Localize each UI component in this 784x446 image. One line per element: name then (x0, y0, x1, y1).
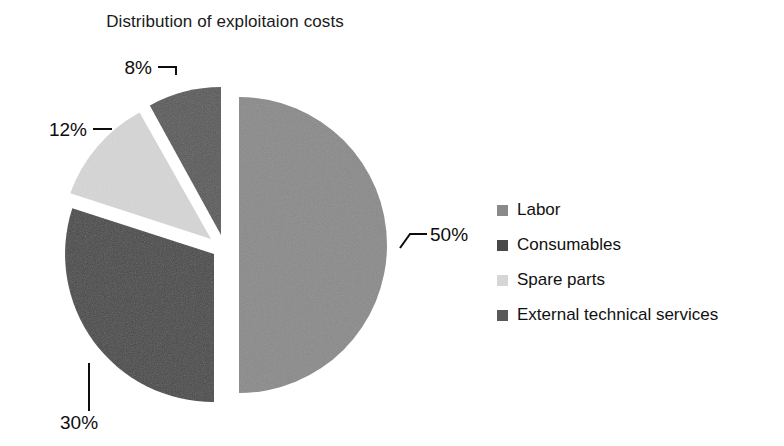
pie-svg: 50% 30% 12% 8% (0, 0, 470, 446)
legend-swatch-icon (497, 275, 508, 286)
legend-item-label: Consumables (517, 236, 621, 253)
pie-label-spare-parts: 12% (49, 119, 87, 140)
pie-chart-figure: Distribution of exploitaion costs (0, 0, 784, 446)
chart-legend: Labor Consumables Spare parts External t… (497, 192, 784, 332)
legend-item-label: Labor (517, 201, 560, 218)
leader-line-labor (400, 234, 427, 248)
legend-swatch-icon (497, 240, 508, 251)
pie-plot-area: 50% 30% 12% 8% (0, 0, 470, 446)
legend-item-labor[interactable]: Labor (497, 192, 784, 227)
pie-label-consumables: 30% (60, 412, 98, 433)
legend-item-spare-parts[interactable]: Spare parts (497, 262, 784, 297)
pie-label-labor: 50% (430, 224, 468, 245)
legend-swatch-icon (497, 205, 508, 216)
legend-swatch-icon (497, 310, 508, 321)
leader-line-external-technical-services (158, 67, 176, 75)
legend-item-label: External technical services (517, 306, 718, 323)
pie-slice-labor[interactable] (239, 97, 387, 393)
legend-item-label: Spare parts (517, 271, 605, 288)
legend-item-external-technical-services[interactable]: External technical services (497, 297, 784, 332)
pie-slice-consumables[interactable] (65, 208, 214, 402)
pie-label-external-technical-services: 8% (125, 57, 153, 78)
legend-item-consumables[interactable]: Consumables (497, 227, 784, 262)
